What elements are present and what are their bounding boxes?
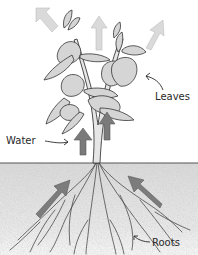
water-label: Water [6, 136, 36, 146]
leaves-label: Leaves [155, 92, 190, 102]
roots-label: Roots [152, 238, 180, 248]
water-pointer [45, 141, 68, 143]
arrow-up-left-icon [36, 8, 58, 32]
arrow-up-icon [91, 16, 107, 50]
leaves-pointer [146, 76, 163, 90]
arrow-up-right-icon [146, 20, 164, 50]
plant-water-diagram [0, 0, 198, 255]
arrow-up-icon [74, 128, 92, 155]
transpiration-arrows [36, 8, 164, 50]
